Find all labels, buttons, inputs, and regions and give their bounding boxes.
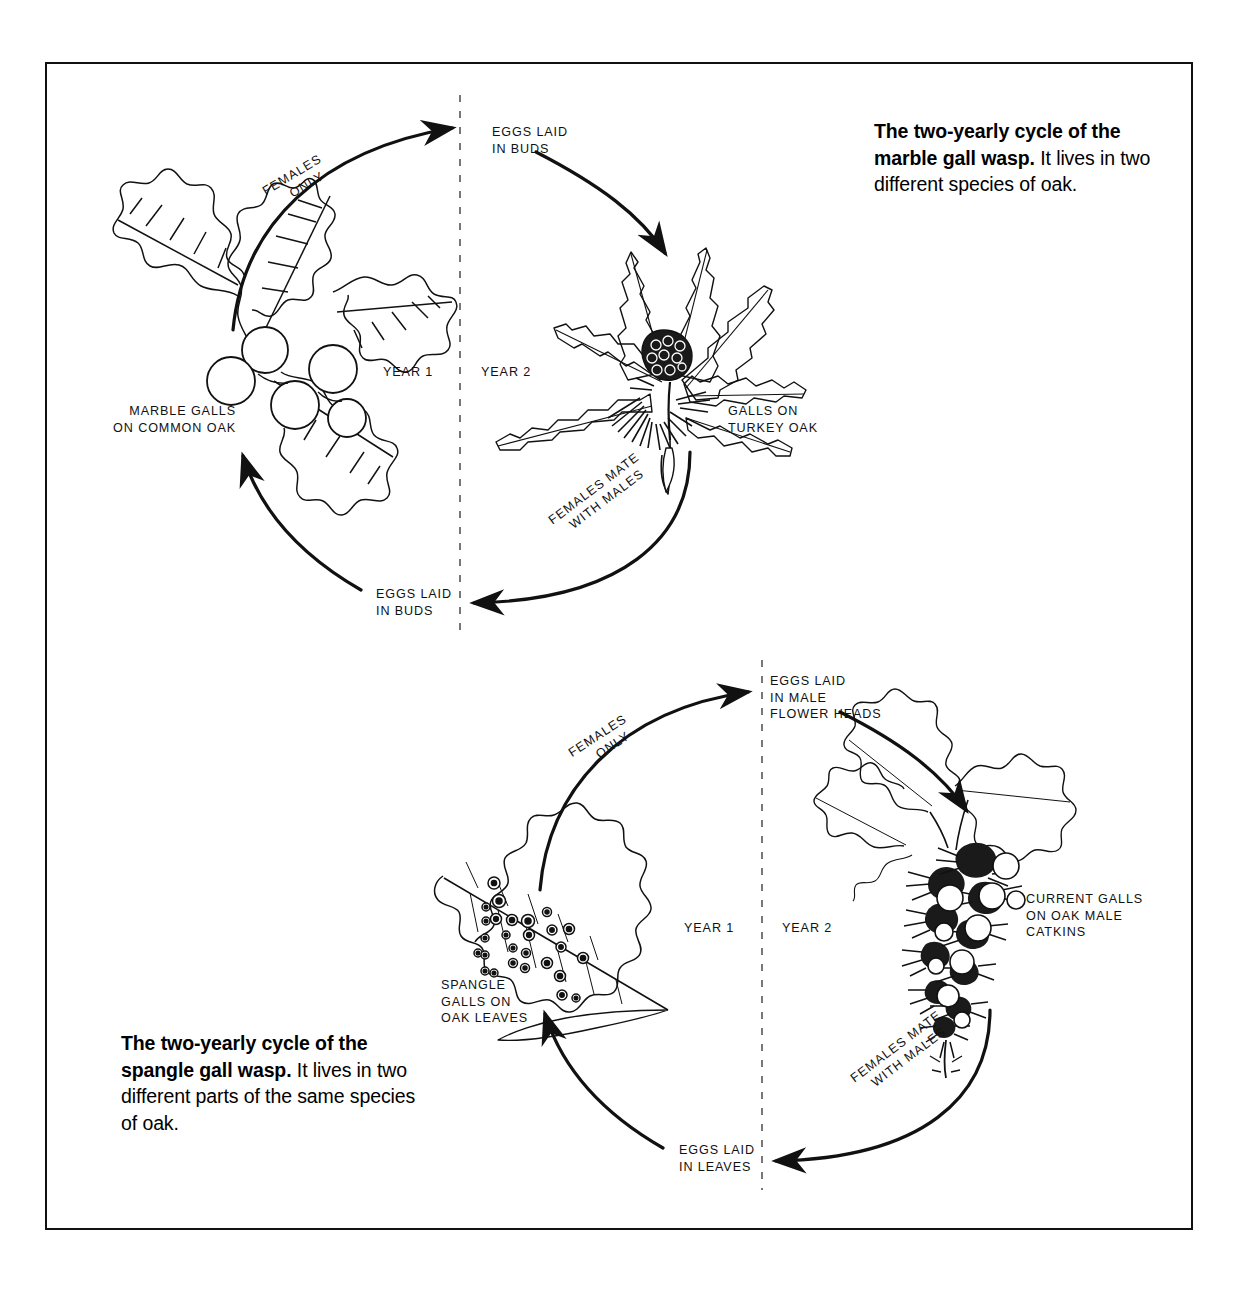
spangle-year-1-label: YEAR 1 (684, 920, 734, 937)
marble-galls-common-oak-label: MARBLE GALLS ON COMMON OAK (60, 403, 236, 436)
spangle-year-2-label: YEAR 2 (782, 920, 832, 937)
spangle-eggs-laid-in-leaves: EGGS LAID IN LEAVES (679, 1142, 755, 1175)
spangle-galls-oak-leaves-label: SPANGLE GALLS ON OAK LEAVES (441, 977, 528, 1027)
marble-caption: The two-yearly cycle of the marble gall … (874, 118, 1174, 198)
marble-year-1-label: YEAR 1 (383, 364, 433, 381)
galls-turkey-oak-label: GALLS ON TURKEY OAK (728, 403, 818, 436)
marble-year-2-label: YEAR 2 (481, 364, 531, 381)
current-galls-oak-male-catkins-label: CURRENT GALLS ON OAK MALE CATKINS (1026, 891, 1143, 941)
marble-eggs-laid-in-buds-top: EGGS LAID IN BUDS (492, 124, 568, 157)
marble-eggs-laid-in-buds-bottom: EGGS LAID IN BUDS (376, 586, 452, 619)
spangle-caption: The two-yearly cycle of the spangle gall… (121, 1030, 431, 1136)
spangle-eggs-laid-male-flower-heads: EGGS LAID IN MALE FLOWER HEADS (770, 673, 882, 723)
